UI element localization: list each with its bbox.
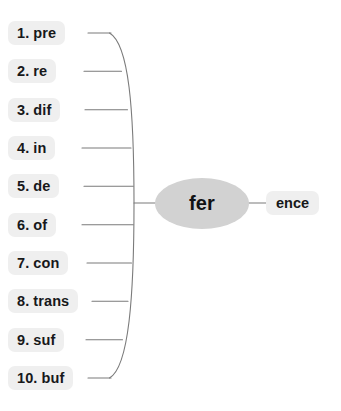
word-building-diagram: 1. pre 2. re 3. dif 4. in 5. de 6. of 7.… <box>0 0 341 411</box>
prefix-label: pre <box>33 25 56 41</box>
prefix-label: suf <box>33 332 55 348</box>
prefix-index: 10. <box>17 370 37 386</box>
prefix-label: in <box>33 140 46 156</box>
prefix-item-10[interactable]: 10. buf <box>8 366 73 390</box>
prefix-index: 6. <box>17 217 29 233</box>
prefix-index: 1. <box>17 25 29 41</box>
prefix-item-9[interactable]: 9. suf <box>8 328 64 352</box>
prefix-index: 5. <box>17 178 29 194</box>
prefix-item-5[interactable]: 5. de <box>8 174 59 198</box>
prefix-item-6[interactable]: 6. of <box>8 213 56 237</box>
prefix-index: 8. <box>17 293 29 309</box>
prefix-item-4[interactable]: 4. in <box>8 136 55 160</box>
prefix-index: 9. <box>17 332 29 348</box>
prefix-label: trans <box>33 293 69 309</box>
root-word-node[interactable]: fer <box>155 178 249 229</box>
prefix-index: 3. <box>17 102 29 118</box>
prefix-label: of <box>33 217 47 233</box>
prefix-item-2[interactable]: 2. re <box>8 59 56 83</box>
prefix-label: con <box>33 255 59 271</box>
suffix-node[interactable]: ence <box>266 191 319 215</box>
suffix-label: ence <box>276 195 309 211</box>
prefix-index: 2. <box>17 63 29 79</box>
prefix-item-3[interactable]: 3. dif <box>8 98 60 122</box>
prefix-item-7[interactable]: 7. con <box>8 251 68 275</box>
prefix-label: re <box>33 63 47 79</box>
prefix-item-8[interactable]: 8. trans <box>8 289 78 313</box>
prefix-label: de <box>33 178 50 194</box>
prefix-index: 7. <box>17 255 29 271</box>
brace-curve <box>110 33 135 378</box>
prefix-label: dif <box>33 102 51 118</box>
prefix-item-1[interactable]: 1. pre <box>8 21 65 45</box>
prefix-label: buf <box>41 370 64 386</box>
prefix-index: 4. <box>17 140 29 156</box>
root-word-label: fer <box>189 192 215 215</box>
